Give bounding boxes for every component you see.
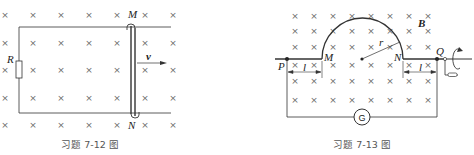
label-M-left: M — [127, 8, 138, 20]
field-mark: × — [141, 120, 149, 130]
resistor-label: R — [6, 53, 14, 65]
resistor — [16, 61, 22, 78]
field-mark: × — [405, 42, 413, 52]
field-mark: × — [85, 93, 93, 103]
field-mark: × — [57, 38, 65, 48]
field-mark: × — [329, 95, 337, 105]
label-r: r — [379, 36, 384, 48]
field-mark: × — [329, 11, 337, 21]
label-N-left: N — [127, 119, 136, 131]
field-mark: × — [113, 120, 121, 130]
velocity-label: v — [146, 50, 151, 62]
field-mark: × — [141, 38, 149, 48]
field-mark: × — [424, 95, 432, 105]
field-mark: × — [291, 60, 299, 70]
rotation-arrowhead — [457, 47, 463, 52]
field-mark: × — [348, 95, 356, 105]
field-mark: × — [424, 76, 432, 86]
field-mark: × — [113, 38, 121, 48]
label-N-right: N — [393, 51, 402, 63]
field-mark: × — [405, 95, 413, 105]
field-mark: × — [291, 11, 299, 21]
field-mark: × — [310, 76, 318, 86]
galvanometer-label: G — [358, 113, 365, 123]
label-Q: Q — [436, 45, 444, 57]
field-mark: × — [113, 10, 121, 20]
field-mark: × — [141, 65, 149, 75]
field-mark: × — [291, 76, 299, 86]
field-mark: × — [141, 10, 149, 20]
field-mark: × — [386, 60, 394, 70]
field-mark: × — [405, 11, 413, 21]
field-mark: × — [169, 65, 177, 75]
field-mark: × — [1, 38, 9, 48]
field-mark: × — [1, 10, 9, 20]
field-mark: × — [367, 42, 375, 52]
label-M-right: M — [323, 51, 334, 63]
field-mark: × — [57, 65, 65, 75]
magnetic-field-marks-left: ××××××××××××××××××××××××××××××××××× — [1, 10, 177, 130]
caption-7-13: 习题 7-13 图 — [333, 139, 391, 150]
field-mark: × — [85, 38, 93, 48]
label-l-right: l — [419, 61, 422, 73]
crank-grip — [448, 73, 457, 77]
field-mark: × — [1, 65, 9, 75]
velocity-arrowhead — [160, 61, 167, 65]
diagram-canvas: ××××××××××××××××××××××××××××××××××× R M … — [0, 0, 474, 155]
caption-7-12: 习题 7-12 图 — [61, 139, 119, 150]
field-mark: × — [367, 60, 375, 70]
figure-7-13: ××××××××××××××××××××××××××××××××××××××××… — [275, 11, 472, 150]
label-l-left: l — [303, 61, 306, 73]
field-mark: × — [424, 42, 432, 52]
field-mark: × — [424, 26, 432, 36]
field-mark: × — [291, 42, 299, 52]
field-mark: × — [310, 11, 318, 21]
field-mark: × — [29, 38, 37, 48]
field-mark: × — [405, 26, 413, 36]
field-mark: × — [169, 93, 177, 103]
field-mark: × — [85, 120, 93, 130]
field-mark: × — [29, 93, 37, 103]
label-B-field: B — [417, 17, 425, 29]
field-mark: × — [57, 10, 65, 20]
field-mark: × — [169, 120, 177, 130]
field-mark: × — [310, 42, 318, 52]
field-mark: × — [141, 93, 149, 103]
sliding-rod-mn — [127, 24, 139, 118]
field-mark: × — [113, 65, 121, 75]
field-mark: × — [29, 65, 37, 75]
figure-7-12: ××××××××××××××××××××××××××××××××××× R M … — [1, 8, 177, 150]
field-mark: × — [367, 95, 375, 105]
field-mark: × — [310, 60, 318, 70]
label-P: P — [277, 60, 285, 72]
field-mark: × — [348, 26, 356, 36]
field-mark: × — [310, 26, 318, 36]
field-mark: × — [85, 65, 93, 75]
field-mark: × — [1, 120, 9, 130]
field-mark: × — [291, 26, 299, 36]
field-mark: × — [348, 76, 356, 86]
field-mark: × — [348, 60, 356, 70]
semicircle-conductor — [322, 18, 403, 59]
field-mark: × — [424, 11, 432, 21]
field-mark: × — [386, 42, 394, 52]
field-mark: × — [367, 76, 375, 86]
field-mark: × — [57, 93, 65, 103]
field-mark: × — [113, 93, 121, 103]
field-mark: × — [57, 120, 65, 130]
field-mark: × — [329, 76, 337, 86]
field-mark: × — [310, 95, 318, 105]
field-mark: × — [29, 120, 37, 130]
field-mark: × — [405, 60, 413, 70]
field-mark: × — [29, 10, 37, 20]
field-mark: × — [85, 10, 93, 20]
field-mark: × — [169, 10, 177, 20]
field-mark: × — [386, 76, 394, 86]
field-mark: × — [386, 95, 394, 105]
field-mark: × — [348, 42, 356, 52]
field-mark: × — [424, 60, 432, 70]
field-mark: × — [169, 38, 177, 48]
field-mark: × — [386, 11, 394, 21]
field-mark: × — [291, 95, 299, 105]
field-mark: × — [367, 26, 375, 36]
